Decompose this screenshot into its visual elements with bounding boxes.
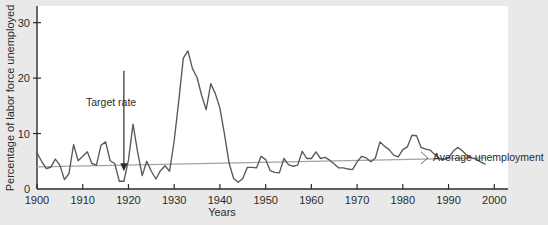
target-rate-label: Target rate [86, 96, 136, 108]
x-tick-label: 1950 [253, 194, 277, 206]
x-tick-label: 1980 [391, 194, 415, 206]
average-unemployment-line [37, 158, 485, 167]
x-tick-label: 1920 [116, 194, 140, 206]
x-tick-label: 1940 [208, 194, 232, 206]
x-tick-label: 1900 [25, 194, 49, 206]
unemployment-chart-figure: 0102030 19001910192019301940195019601970… [0, 0, 548, 225]
target-rate-arrow [120, 71, 127, 171]
average-unemployment-label: Average unemployment [433, 151, 544, 163]
y-tick-label: 20 [18, 72, 30, 84]
x-tick-label: 2000 [482, 194, 506, 206]
average-unemployment-leader-line [421, 152, 428, 164]
x-axis-ticks: 1900191019201930194019501960197019801990… [25, 184, 507, 206]
x-tick-label: 1990 [436, 194, 460, 206]
x-axis-title: Years [208, 206, 236, 218]
x-tick-label: 1910 [70, 194, 94, 206]
x-tick-label: 1930 [162, 194, 186, 206]
y-tick-label: 10 [18, 128, 30, 140]
chart-svg: 0102030 19001910192019301940195019601970… [0, 0, 548, 225]
x-tick-label: 1960 [299, 194, 323, 206]
x-tick-label: 1970 [345, 194, 369, 206]
y-axis-title: Percentage of labor force unemployed [4, 5, 16, 192]
y-tick-label: 30 [18, 17, 30, 29]
